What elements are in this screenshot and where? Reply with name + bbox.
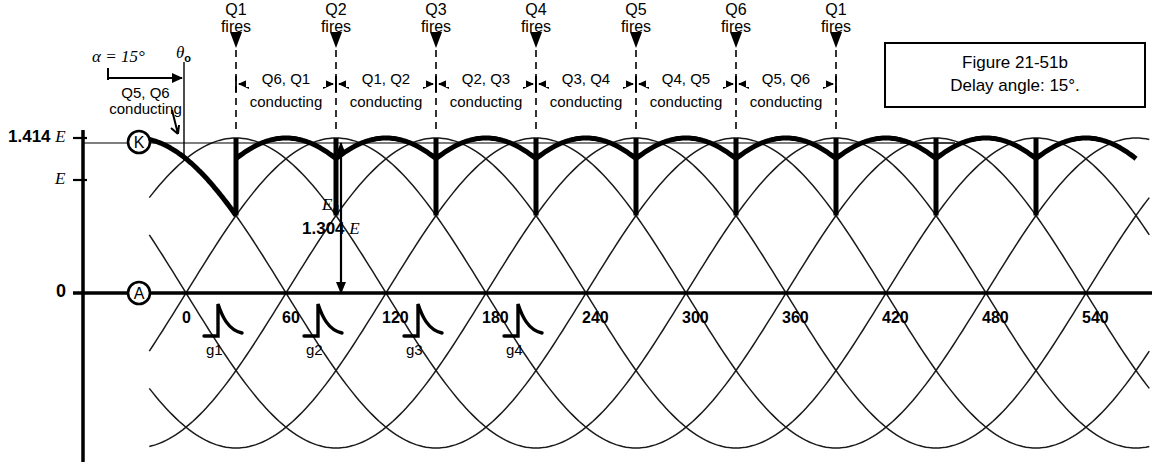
y-tick-zero: 0 [56, 282, 66, 301]
firing-action: fires [596, 19, 676, 36]
initial-conducting-pair: Q5, Q6 [98, 85, 193, 101]
conduction-pair-label-1: Q1, Q2 [346, 71, 426, 87]
firing-action: fires [696, 19, 776, 36]
rectified-output-envelope [149, 138, 1136, 216]
caption-line-1: Figure 21-51b [900, 52, 1130, 75]
x-tick-label-480: 480 [982, 310, 1009, 327]
conduction-state-label-0: conducting [238, 94, 334, 110]
conduction-pair-label-0: Q6, Q1 [246, 71, 326, 87]
firing-label-q6-5: Q6fires [696, 2, 776, 36]
x-tick-label-360: 360 [782, 310, 809, 327]
figure-root: KA Figure 21-51b Delay angle: 15°. α = 1… [0, 0, 1161, 464]
x-tick-label-180: 180 [482, 310, 509, 327]
gate-pulse-label-g3: g3 [406, 342, 423, 358]
x-tick-label-240: 240 [582, 310, 609, 327]
ed-symbol-label: Ed [322, 196, 339, 217]
firing-label-q5-4: Q5fires [596, 2, 676, 36]
gate-pulse-label-g1: g1 [206, 342, 223, 358]
y-tick-rms-unit: E [55, 169, 65, 188]
cathode-marker-letter: K [134, 134, 145, 151]
theta-subscript: o [184, 52, 191, 64]
anode-marker-letter: A [134, 285, 145, 302]
x-tick-label-300: 300 [682, 310, 709, 327]
x-tick-label-120: 120 [382, 310, 409, 327]
x-tick-label-540: 540 [1082, 310, 1109, 327]
firing-action: fires [796, 19, 876, 36]
firing-action: fires [396, 19, 476, 36]
alpha-symbol: α = 15° [92, 47, 145, 66]
conduction-state-label-2: conducting [438, 94, 534, 110]
firing-action: fires [296, 19, 376, 36]
conduction-pair-label-2: Q2, Q3 [446, 71, 526, 87]
firing-label-q4-3: Q4fires [496, 2, 576, 36]
gate-pulse-label-g4: g4 [506, 342, 523, 358]
caption-line-2: Delay angle: 15°. [900, 75, 1130, 98]
ed-value-unit: E [349, 219, 359, 238]
firing-label-q3-2: Q3fires [396, 2, 476, 36]
firing-device: Q1 [796, 2, 876, 19]
firing-action: fires [196, 19, 276, 36]
conduction-state-label-3: conducting [538, 94, 634, 110]
firing-device: Q3 [396, 2, 476, 19]
conduction-pair-label-4: Q4, Q5 [646, 71, 726, 87]
firing-action: fires [496, 19, 576, 36]
firing-label-q1-6: Q1fires [796, 2, 876, 36]
firing-label-q1-0: Q1fires [196, 2, 276, 36]
delay-angle-label: α = 15° [92, 48, 145, 66]
initial-conducting-label: Q5, Q6 conducting [98, 85, 193, 117]
firing-device: Q2 [296, 2, 376, 19]
conduction-pair-label-3: Q3, Q4 [546, 71, 626, 87]
ed-value-label: 1.304 E [302, 220, 360, 238]
x-tick-label-420: 420 [882, 310, 909, 327]
conduction-pair-label-5: Q5, Q6 [746, 71, 826, 87]
y-tick-peak-unit: E [55, 127, 65, 146]
firing-device: Q1 [196, 2, 276, 19]
ed-value: 1.304 [302, 219, 345, 238]
alpha-dim-arrowhead [172, 73, 183, 83]
x-tick-label-60: 60 [282, 310, 300, 327]
y-tick-peak-value: 1.414 [8, 127, 51, 146]
ed-symbol: E [322, 195, 332, 214]
conduction-state-label-5: conducting [738, 94, 834, 110]
ed-subscript: d [332, 203, 339, 217]
firing-device: Q6 [696, 2, 776, 19]
firing-device: Q4 [496, 2, 576, 19]
theta-origin-label: θo [176, 44, 191, 65]
conduction-state-label-1: conducting [338, 94, 434, 110]
firing-label-q2-1: Q2fires [296, 2, 376, 36]
y-tick-peak: 1.414 E [8, 128, 66, 146]
conduction-state-label-4: conducting [638, 94, 734, 110]
x-tick-label-0: 0 [182, 310, 191, 327]
gate-pulse-label-g2: g2 [306, 342, 323, 358]
initial-conducting-state: conducting [98, 101, 193, 117]
figure-caption-box: Figure 21-51b Delay angle: 15°. [884, 42, 1146, 108]
firing-device: Q5 [596, 2, 676, 19]
y-tick-rms: E [55, 170, 65, 188]
